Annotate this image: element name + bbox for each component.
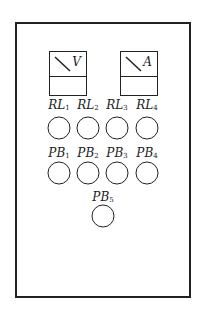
needle-icon [54,56,72,72]
push-button-1[interactable] [48,162,71,185]
relay-lamp-3 [106,117,129,140]
relay-label-3: RL3 [106,98,127,112]
push-button-3[interactable] [106,162,129,185]
relay-label-2: RL2 [77,98,98,112]
control-panel [15,22,191,298]
push-button-2[interactable] [77,162,100,185]
push-button-4[interactable] [136,162,159,185]
relay-label-4: RL4 [136,98,157,112]
voltmeter: V [49,51,87,96]
relay-lamp-4 [136,117,159,140]
push-button-label-4: PB4 [136,146,157,160]
push-button-label-3: PB3 [106,146,127,160]
meter-symbol: A [143,55,152,69]
relay-label-1: RL1 [48,98,69,112]
relay-lamp-1 [48,117,71,140]
push-button-5[interactable] [92,205,115,228]
meter-symbol: V [72,55,81,69]
push-button-label-2: PB2 [77,146,98,160]
ammeter: A [120,51,158,96]
relay-lamp-2 [77,117,100,140]
push-button-label-5: PB5 [92,190,113,204]
push-button-label-1: PB1 [48,146,69,160]
meter-dial: A [121,52,157,77]
meter-dial: V [50,52,86,77]
needle-icon [125,56,143,72]
